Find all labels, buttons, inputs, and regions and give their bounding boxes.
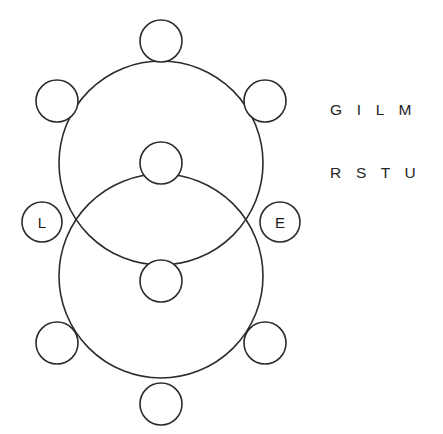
lower-left-circle[interactable] xyxy=(36,322,78,364)
upper-right-circle[interactable] xyxy=(244,80,286,122)
side-letter-line-1: G I L M xyxy=(330,99,421,120)
bottom-circle[interactable] xyxy=(140,383,182,425)
lower-right-circle[interactable] xyxy=(244,322,286,364)
side-letter-block: G I L M R S T U xyxy=(330,57,421,225)
lower-center-circle[interactable] xyxy=(140,260,182,302)
left-circle-label: L xyxy=(38,214,46,231)
upper-left-circle[interactable] xyxy=(36,80,78,122)
upper-center-circle[interactable] xyxy=(140,142,182,184)
diagram-canvas: L E G I L M R S T U xyxy=(0,0,443,434)
top-circle[interactable] xyxy=(140,20,182,62)
right-circle-label: E xyxy=(275,214,285,231)
side-letter-line-2: R S T U xyxy=(330,162,421,183)
